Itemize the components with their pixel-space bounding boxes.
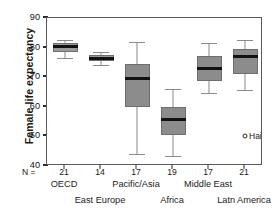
y-axis-title: Female life expectancy [23, 6, 35, 166]
y-tick-label: 80 [20, 42, 40, 51]
sample-size-value: 17 [203, 166, 213, 178]
whisker-upper [209, 43, 210, 56]
box-iqr [233, 49, 258, 74]
median-line [125, 77, 150, 80]
boxplot-box[interactable] [53, 18, 78, 164]
whisker-cap-upper [201, 43, 217, 44]
whisker-upper [173, 89, 174, 107]
plot-area: Haiti [46, 17, 262, 165]
whisker-lower [137, 107, 138, 154]
x-axis-category-label: Middle East [184, 179, 232, 190]
median-line [233, 55, 258, 58]
box-iqr [125, 64, 150, 107]
y-tick-label: 60 [20, 101, 40, 110]
sample-size-value: 21 [239, 166, 249, 178]
x-axis-category-label: Pacific/Asia [112, 179, 160, 190]
y-tick-label: 90 [20, 13, 40, 22]
whisker-lower [245, 74, 246, 90]
whisker-cap-upper [237, 40, 253, 41]
y-tick-label: 50 [20, 131, 40, 140]
outlier-marker[interactable] [243, 134, 248, 139]
boxplot-box[interactable] [197, 18, 222, 164]
whisker-cap-upper [93, 52, 109, 53]
whisker-cap-lower [237, 90, 253, 91]
whisker-cap-lower [93, 65, 109, 66]
sample-size-label: N = [22, 166, 36, 178]
x-axis-category-label: OECD [51, 179, 78, 190]
whisker-cap-upper [57, 40, 73, 41]
whisker-lower [173, 135, 174, 155]
median-line [89, 57, 114, 60]
boxplot-box[interactable] [89, 18, 114, 164]
sample-size-value: 21 [59, 166, 69, 178]
sample-size-row: N = 211417191721 [0, 166, 276, 180]
outlier-label: Haiti [249, 132, 262, 141]
whisker-cap-lower [201, 93, 217, 94]
sample-size-value: 19 [167, 166, 177, 178]
sample-size-value: 14 [95, 166, 105, 178]
whisker-upper [137, 42, 138, 64]
x-axis-category-label: Africa [160, 195, 184, 206]
whisker-lower [209, 81, 210, 93]
boxplot-box[interactable] [233, 18, 258, 164]
boxplot-figure: Female life expectancy 405060708090 Hait… [0, 0, 276, 220]
x-axis-category-label: Latn America [217, 195, 271, 206]
whisker-upper [245, 40, 246, 49]
median-line [161, 118, 186, 121]
whisker-cap-upper [129, 42, 145, 43]
sample-size-value: 17 [131, 166, 141, 178]
boxplot-box[interactable] [125, 18, 150, 164]
median-line [197, 67, 222, 70]
whisker-cap-lower [165, 156, 181, 157]
whisker-cap-lower [129, 154, 145, 155]
median-line [53, 45, 78, 48]
y-tick-label: 70 [20, 72, 40, 81]
whisker-cap-lower [57, 58, 73, 59]
whisker-cap-upper [165, 89, 181, 90]
boxplot-box[interactable] [161, 18, 186, 164]
x-axis-category-label: East Europe [75, 195, 126, 206]
